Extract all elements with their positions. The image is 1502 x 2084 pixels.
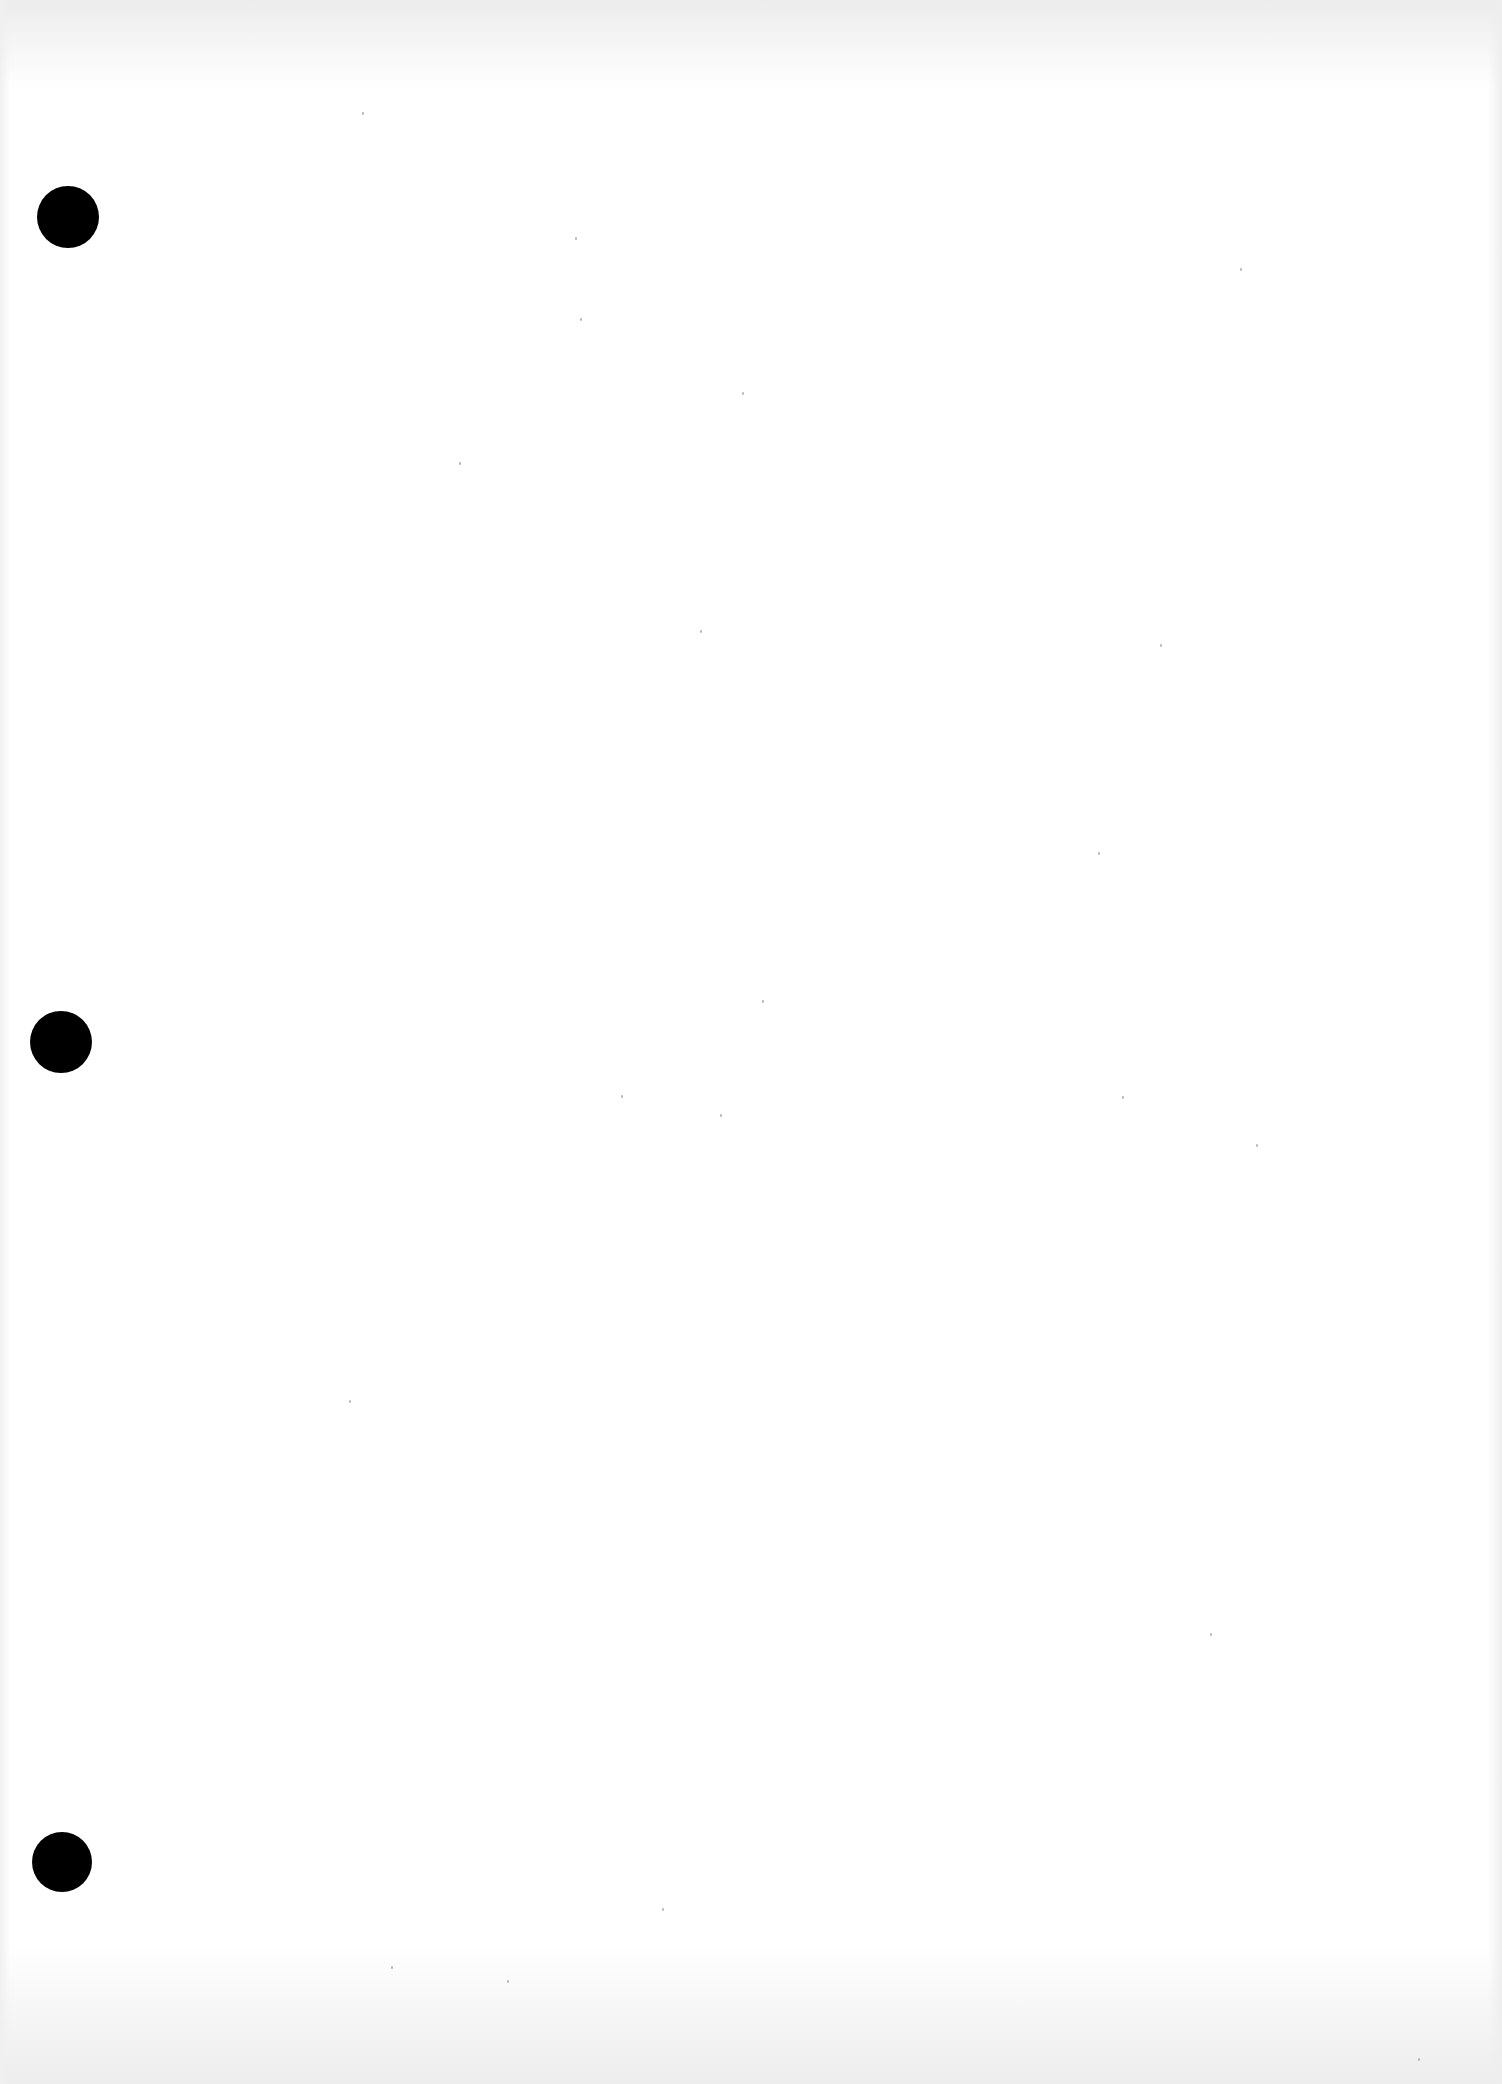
- scan-speck: [459, 462, 461, 465]
- scan-speck: [700, 630, 702, 633]
- scan-speck: [1418, 2058, 1420, 2061]
- scan-shadow-top: [0, 0, 1502, 90]
- scan-speck: [1256, 1144, 1258, 1147]
- scan-speck: [1160, 644, 1162, 647]
- scan-speck: [720, 1114, 722, 1117]
- scan-speck: [621, 1095, 623, 1098]
- blank-scanned-page: [0, 0, 1502, 2084]
- scan-speck: [1240, 268, 1242, 271]
- scan-speck: [1122, 1096, 1124, 1099]
- scan-speck: [1098, 852, 1100, 855]
- scan-speck: [349, 1400, 351, 1403]
- scan-speck: [391, 1966, 393, 1969]
- scan-speck: [580, 318, 582, 321]
- punch-hole-middle: [30, 1011, 92, 1073]
- scan-speck: [1210, 1633, 1212, 1636]
- scan-shadow-right: [1488, 0, 1502, 2084]
- punch-hole-top: [37, 186, 99, 248]
- scan-speck: [362, 112, 364, 115]
- scan-speck: [742, 392, 744, 395]
- scan-shadow-bottom: [0, 1944, 1502, 2084]
- scan-speck: [762, 1000, 764, 1003]
- scan-shadow-left: [0, 0, 10, 2084]
- scan-speck: [507, 1980, 509, 1983]
- scan-speck: [662, 1908, 664, 1911]
- punch-hole-bottom: [32, 1832, 92, 1892]
- scan-speck: [575, 237, 577, 240]
